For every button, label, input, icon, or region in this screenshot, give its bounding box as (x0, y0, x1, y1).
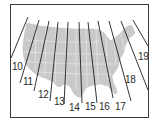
zone-map-figure: 10111213141516171819 (0, 0, 156, 124)
zone-label: 18 (125, 75, 136, 85)
zone-label: 16 (99, 102, 110, 112)
zone-label: 19 (138, 52, 149, 62)
zone-label: 11 (23, 77, 33, 87)
zone-label: 14 (69, 103, 80, 113)
zone-label: 13 (54, 97, 65, 107)
zone-label: 10 (12, 62, 23, 72)
zone-label: 17 (115, 102, 126, 112)
zone-label: 12 (38, 90, 49, 100)
zone-label: 15 (85, 102, 96, 112)
